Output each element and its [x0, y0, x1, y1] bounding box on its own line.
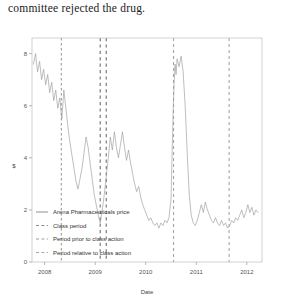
x-axis-ticks: 20082009201020112012: [38, 262, 254, 275]
stock-price-chart: 02468 20082009201020112012 $ Date Arena …: [0, 22, 282, 301]
legend-label-1: Arena Pharmaceuticals price: [53, 209, 130, 215]
x-tick-label: 2012: [240, 269, 254, 275]
x-axis-label: Date: [141, 289, 154, 295]
y-tick-label: 0: [24, 259, 28, 265]
y-tick-label: 6: [24, 103, 28, 109]
price-line-series: [34, 54, 258, 229]
y-tick-label: 8: [24, 51, 28, 57]
x-tick-label: 2011: [190, 269, 204, 275]
x-tick-label: 2008: [38, 269, 52, 275]
x-tick-label: 2010: [139, 269, 153, 275]
legend-label-4: Period relative to class action: [53, 250, 131, 256]
y-tick-label: 4: [24, 155, 28, 161]
vertical-event-lines: [61, 38, 229, 262]
legend-label-3: Period prior to class action: [53, 236, 124, 242]
y-axis-ticks: 02468: [24, 51, 32, 265]
y-tick-label: 2: [24, 207, 28, 213]
chart-canvas: 02468 20082009201020112012 $ Date Arena …: [0, 22, 282, 301]
chart-legend: Arena Pharmaceuticals priceClass periodP…: [36, 209, 131, 256]
x-tick-label: 2009: [89, 269, 103, 275]
y-axis-label: $: [12, 163, 16, 169]
figure-caption: committee rejected the drug.: [8, 2, 145, 14]
legend-label-2: Class period: [53, 223, 86, 229]
